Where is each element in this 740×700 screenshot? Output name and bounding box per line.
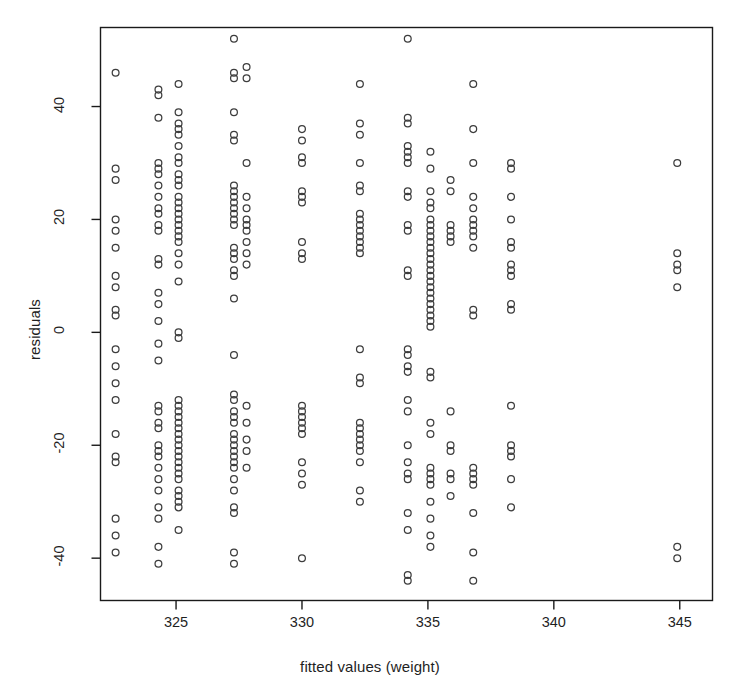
x-tick-label: 345 <box>650 614 710 630</box>
data-point <box>112 216 119 223</box>
data-point <box>299 459 306 466</box>
data-point <box>508 476 515 483</box>
data-point <box>447 408 454 415</box>
data-point <box>427 148 434 155</box>
y-axis-ticks <box>92 107 101 559</box>
data-point <box>243 402 250 409</box>
data-point <box>175 143 182 150</box>
data-point <box>470 205 477 212</box>
data-point <box>404 510 411 517</box>
data-point <box>299 137 306 144</box>
data-point <box>155 560 162 567</box>
data-point <box>470 244 477 251</box>
data-point <box>155 543 162 550</box>
y-tick-label: 20 <box>51 197 67 237</box>
data-point <box>112 227 119 234</box>
data-point <box>231 487 238 494</box>
data-point <box>470 81 477 88</box>
data-point <box>112 244 119 251</box>
data-point <box>175 109 182 116</box>
data-point <box>175 261 182 268</box>
y-tick-label: -20 <box>51 423 67 463</box>
y-tick-label: -40 <box>51 536 67 576</box>
data-point <box>404 442 411 449</box>
data-point <box>155 182 162 189</box>
data-point <box>175 81 182 88</box>
data-point <box>357 346 364 353</box>
data-point <box>447 188 454 195</box>
data-point <box>155 464 162 471</box>
data-point <box>243 205 250 212</box>
data-point <box>155 193 162 200</box>
data-point <box>470 126 477 133</box>
data-point <box>231 295 238 302</box>
data-point <box>299 126 306 133</box>
data-point <box>427 165 434 172</box>
data-point <box>112 272 119 279</box>
data-point <box>155 301 162 308</box>
data-point <box>470 549 477 556</box>
data-point <box>508 216 515 223</box>
data-point <box>243 436 250 443</box>
data-point <box>357 160 364 167</box>
data-point <box>112 346 119 353</box>
data-point <box>357 81 364 88</box>
data-point <box>243 250 250 257</box>
data-point <box>470 577 477 584</box>
data-point <box>674 543 681 550</box>
data-point <box>427 431 434 438</box>
data-point <box>231 109 238 116</box>
data-point <box>357 131 364 138</box>
data-point <box>299 481 306 488</box>
data-point <box>155 476 162 483</box>
data-point <box>357 498 364 505</box>
data-point <box>427 515 434 522</box>
data-point <box>243 75 250 82</box>
plot-frame <box>101 28 713 601</box>
data-points <box>112 35 680 584</box>
x-axis-ticks <box>176 601 680 610</box>
x-tick-label: 325 <box>146 614 206 630</box>
data-point <box>155 504 162 511</box>
x-tick-label: 330 <box>272 614 332 630</box>
data-point <box>357 120 364 127</box>
data-point <box>674 284 681 291</box>
x-tick-label: 340 <box>524 614 584 630</box>
data-point <box>243 464 250 471</box>
data-point <box>231 560 238 567</box>
data-point <box>112 549 119 556</box>
data-point <box>112 165 119 172</box>
data-point <box>155 357 162 364</box>
data-point <box>404 527 411 534</box>
data-point <box>155 318 162 325</box>
data-point <box>404 408 411 415</box>
data-point <box>470 160 477 167</box>
data-point <box>155 515 162 522</box>
plot-canvas <box>0 0 740 700</box>
data-point <box>231 476 238 483</box>
data-point <box>112 397 119 404</box>
data-point <box>674 160 681 167</box>
data-point <box>243 419 250 426</box>
data-point <box>231 549 238 556</box>
data-point <box>508 504 515 511</box>
data-point <box>427 532 434 539</box>
residual-plot-figure: fitted values (weight) residuals 3253303… <box>0 0 740 700</box>
data-point <box>243 160 250 167</box>
data-point <box>508 193 515 200</box>
y-axis-label: residuals <box>26 299 43 360</box>
data-point <box>243 193 250 200</box>
data-point <box>175 527 182 534</box>
data-point <box>508 402 515 409</box>
data-point <box>112 363 119 370</box>
data-point <box>243 261 250 268</box>
data-point <box>175 278 182 285</box>
data-point <box>299 470 306 477</box>
y-tick-label: 40 <box>51 85 67 125</box>
data-point <box>112 532 119 539</box>
data-point <box>447 177 454 184</box>
data-point <box>243 239 250 246</box>
data-point <box>447 493 454 500</box>
data-point <box>404 397 411 404</box>
data-point <box>357 459 364 466</box>
